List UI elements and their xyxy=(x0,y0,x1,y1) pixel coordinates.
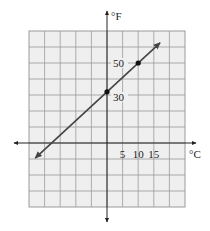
temperature-conversion-graph: °F °C 51015 3050 xyxy=(0,0,210,231)
x-tick-label: 15 xyxy=(148,148,160,160)
x-tick-label: 10 xyxy=(133,148,145,160)
data-point xyxy=(104,89,109,94)
y-tick-label: 50 xyxy=(113,57,125,69)
x-tick-label: 5 xyxy=(120,148,126,160)
y-axis-label: °F xyxy=(111,10,122,22)
x-axis-label: °C xyxy=(189,148,201,160)
y-tick-label: 30 xyxy=(113,91,125,103)
data-point xyxy=(136,60,141,65)
